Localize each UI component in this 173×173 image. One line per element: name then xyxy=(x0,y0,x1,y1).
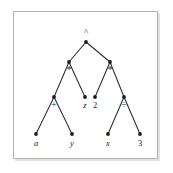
tree-node-label: * xyxy=(108,65,113,75)
tree-label-layer: ^**+z2÷ayx3 xyxy=(34,27,142,148)
tree-node-label: ^ xyxy=(84,27,89,37)
tree-node-label: * xyxy=(67,65,72,75)
tree-node-layer xyxy=(34,40,142,136)
tree-node-dot xyxy=(106,132,110,136)
tree-node-dot xyxy=(34,132,38,136)
tree-edge xyxy=(69,42,86,62)
tree-node-dot xyxy=(83,95,87,99)
tree-node-dot xyxy=(52,95,56,99)
tree-node-dot xyxy=(122,95,126,99)
tree-edge xyxy=(86,42,110,62)
figure-root: ^**+z2÷ayx3 xyxy=(0,0,173,173)
tree-node-label: 3 xyxy=(138,138,142,148)
tree-node-label: z xyxy=(82,100,87,110)
tree-node-label: ÷ xyxy=(121,100,126,110)
tree-node-dot xyxy=(70,132,74,136)
tree-edge xyxy=(54,97,72,134)
tree-node-label: y xyxy=(69,138,74,148)
tree-node-dot xyxy=(67,60,71,64)
tree-edge xyxy=(69,62,85,97)
tree-node-dot xyxy=(93,95,97,99)
tree-node-label: + xyxy=(51,100,56,110)
tree-node-dot xyxy=(84,40,88,44)
tree-node-dot xyxy=(138,132,142,136)
tree-node-label: x xyxy=(105,138,110,148)
expression-tree-diagram: ^**+z2÷ayx3 xyxy=(0,0,173,173)
tree-edge-layer xyxy=(36,42,140,134)
tree-node-dot xyxy=(108,60,112,64)
tree-node-label: a xyxy=(34,138,38,148)
tree-node-label: 2 xyxy=(93,100,97,110)
